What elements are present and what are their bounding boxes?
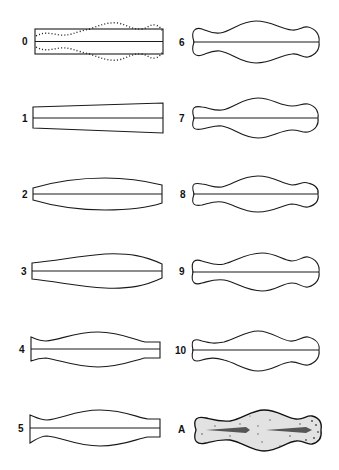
profile-6: 6 (179, 21, 319, 63)
profile-label: 10 (175, 345, 187, 356)
profile-label: A (178, 424, 185, 435)
profile-label: 8 (180, 189, 186, 200)
double-waist-outline (192, 331, 319, 371)
profile-3: 3 (21, 254, 162, 288)
profile-label: 3 (21, 266, 27, 277)
profile-1: 1 (22, 103, 163, 133)
shape-diagram: 0 1 2 3 4 5 6 7 (0, 0, 339, 470)
profile-10: 10 (175, 331, 319, 371)
profile-label: 2 (22, 189, 28, 200)
profile-label: 9 (179, 266, 185, 277)
profile-label: 4 (19, 344, 25, 355)
profile-label: 5 (18, 423, 24, 434)
profile-2: 2 (22, 178, 162, 210)
profile-5: 5 (18, 410, 160, 446)
profile-label: 7 (179, 113, 185, 124)
profile-7: 7 (179, 98, 318, 138)
profile-8: 8 (180, 176, 318, 212)
specimen-A: A (178, 410, 321, 451)
profile-4: 4 (19, 332, 160, 367)
profile-label: 1 (22, 113, 28, 124)
profile-9: 9 (179, 253, 319, 291)
profile-label: 6 (179, 37, 185, 48)
profile-label: 0 (22, 36, 28, 47)
profile-0: 0 (22, 23, 163, 60)
